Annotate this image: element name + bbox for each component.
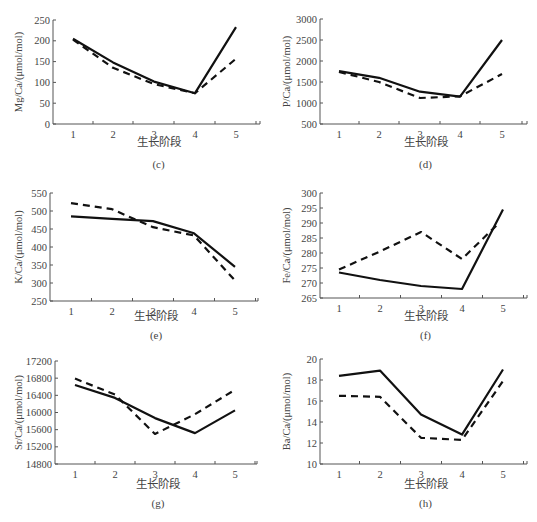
y-tick-label: 16 [307, 396, 318, 407]
y-axis-title: Sr/Ca/(μmol/mol) [13, 374, 25, 450]
x-axis-title: 生长阶段 [404, 135, 449, 149]
y-tick-label: 285 [301, 233, 317, 244]
y-tick-label: 265 [301, 293, 317, 304]
x-tick-label: 1 [68, 306, 73, 317]
x-axis-title: 生长阶段 [136, 477, 181, 491]
chart-panel-c: 05010015020025012345生长阶段(c)Mg/Ca/(μmol/m… [13, 15, 260, 172]
x-axis-title: 生长阶段 [137, 135, 182, 149]
y-tick-label: 50 [40, 98, 51, 109]
x-tick-label: 1 [72, 469, 77, 480]
solid-series-line [339, 370, 503, 435]
x-tick-label: 4 [457, 129, 463, 140]
chart-canvas: 05010015020025012345生长阶段(c)Mg/Ca/(μmol/m… [0, 0, 537, 522]
y-tick-label: 17200 [26, 356, 52, 367]
y-tick-label: 550 [31, 188, 47, 199]
y-tick-label: 20 [307, 354, 318, 365]
solid-series-line [73, 27, 236, 93]
y-tick-label: 200 [34, 35, 50, 46]
y-tick-label: 3000 [296, 14, 317, 25]
panel-label: (h) [419, 497, 432, 510]
y-tick-label: 16400 [26, 390, 52, 401]
panel-label: (g) [152, 497, 165, 510]
y-axis-title: K/Ca/(μmol/mol) [13, 210, 25, 284]
x-tick-label: 4 [192, 469, 198, 480]
y-tick-label: 16800 [26, 373, 52, 384]
y-tick-label: 275 [301, 263, 317, 274]
panel-label: (c) [152, 158, 165, 171]
x-tick-label: 5 [233, 129, 238, 140]
y-tick-label: 400 [31, 242, 47, 253]
chart-panel-d: 5001000150020002500300012345生长阶段(d)P/Ca/… [281, 14, 527, 172]
panel-label: (f) [420, 329, 431, 342]
y-tick-label: 350 [31, 260, 47, 271]
y-tick-label: 16000 [26, 407, 52, 418]
y-tick-label: 2000 [296, 56, 317, 67]
dashed-series-line [75, 379, 235, 434]
x-tick-label: 1 [336, 303, 341, 314]
y-tick-label: 10 [307, 459, 318, 470]
x-axis-title: 生长阶段 [404, 309, 449, 323]
y-axis-title: P/Ca/(μmol/mol) [281, 35, 293, 107]
solid-series-line [339, 210, 503, 290]
y-tick-label: 14 [307, 417, 318, 428]
x-tick-label: 4 [459, 469, 465, 480]
x-tick-label: 4 [459, 303, 465, 314]
x-tick-label: 5 [232, 469, 237, 480]
x-tick-label: 2 [110, 129, 115, 140]
y-tick-label: 12 [307, 438, 318, 449]
x-tick-label: 5 [499, 129, 504, 140]
x-tick-label: 5 [500, 469, 505, 480]
y-tick-label: 295 [301, 203, 317, 214]
y-tick-label: 1000 [296, 98, 317, 109]
x-tick-label: 1 [336, 129, 341, 140]
y-tick-label: 0 [45, 119, 50, 130]
y-tick-label: 250 [31, 296, 47, 307]
y-tick-label: 300 [301, 188, 317, 199]
y-tick-label: 2500 [296, 35, 317, 46]
y-tick-label: 1500 [296, 77, 317, 88]
x-tick-label: 1 [70, 129, 75, 140]
y-tick-label: 280 [301, 248, 317, 259]
x-tick-label: 2 [377, 469, 382, 480]
y-axis-title: Fe/Ca/(μmol/mol) [281, 207, 293, 284]
y-tick-label: 150 [34, 56, 50, 67]
x-tick-label: 2 [376, 129, 381, 140]
solid-series-line [71, 216, 235, 266]
y-axis-title: Mg/Ca/(μmol/mol) [13, 31, 25, 112]
y-tick-label: 14800 [26, 459, 52, 470]
y-tick-label: 450 [31, 224, 47, 235]
dashed-series-line [71, 203, 235, 280]
panel-label: (e) [150, 329, 163, 342]
y-tick-label: 500 [31, 206, 47, 217]
figure: 05010015020025012345生长阶段(c)Mg/Ca/(μmol/m… [0, 0, 537, 522]
x-tick-label: 4 [191, 306, 197, 317]
y-tick-label: 15200 [26, 441, 52, 452]
x-axis-title: 生长阶段 [134, 309, 179, 323]
y-tick-label: 300 [31, 278, 47, 289]
x-tick-label: 2 [109, 306, 114, 317]
chart-panel-e: 25030035040045050055012345生长阶段(e)K/Ca/(μ… [13, 188, 258, 343]
chart-panel-f: 26527027528028529029530012345生长阶段(f)Fe/C… [281, 188, 527, 343]
y-tick-label: 250 [34, 15, 50, 26]
y-tick-label: 270 [301, 278, 317, 289]
x-tick-label: 5 [232, 306, 237, 317]
y-axis-title: Ba/Ca/(μmol/mol) [281, 372, 293, 450]
chart-panel-h: 10121416182012345生长阶段(h)Ba/Ca/(μmol/mol) [281, 354, 527, 511]
y-tick-label: 18 [307, 375, 318, 386]
y-tick-label: 15600 [26, 424, 52, 435]
x-tick-label: 2 [377, 303, 382, 314]
x-tick-label: 4 [192, 129, 198, 140]
y-tick-label: 290 [301, 218, 317, 229]
x-tick-label: 2 [112, 469, 117, 480]
y-tick-label: 500 [301, 119, 317, 130]
x-axis-title: 生长阶段 [404, 477, 449, 491]
solid-series-line [75, 385, 235, 433]
x-tick-label: 5 [500, 303, 505, 314]
chart-panel-g: 1480015200156001600016400168001720012345… [13, 356, 257, 511]
y-tick-label: 100 [34, 77, 50, 88]
panel-label: (d) [419, 158, 432, 171]
x-tick-label: 1 [336, 469, 341, 480]
